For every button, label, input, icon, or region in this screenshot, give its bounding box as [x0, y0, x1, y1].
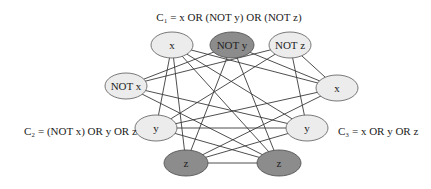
node-c2z: z [164, 150, 208, 176]
clause-label-c1: C₁ = x OR (NOT y) OR (NOT z) [156, 11, 302, 24]
node-label: x [334, 82, 340, 94]
nodes-layer: xNOT yNOT zNOT xyzxyz [105, 32, 358, 176]
node-c1ny: NOT y [210, 32, 254, 58]
node-label: x [169, 39, 175, 51]
node-c3y: y [286, 115, 328, 141]
node-label: z [277, 157, 282, 169]
node-label: NOT y [217, 39, 248, 51]
clique-graph: xNOT yNOT zNOT xyzxyz C₁ = x OR (NOT y) … [0, 0, 431, 189]
node-c1x: x [151, 32, 193, 58]
node-c3x: x [316, 75, 358, 101]
clause-labels-layer: C₁ = x OR (NOT y) OR (NOT z)C₂ = (NOT x)… [24, 11, 418, 138]
edge-c1nz-c2nx [126, 45, 290, 86]
clause-label-c3: C₃ = x OR y OR z [338, 125, 418, 137]
node-c2y: y [135, 115, 177, 141]
node-c3z: z [257, 150, 301, 176]
node-label: NOT z [275, 39, 305, 51]
node-label: y [153, 122, 159, 134]
node-c1nz: NOT z [269, 32, 311, 58]
node-label: NOT x [111, 80, 142, 92]
node-label: z [184, 157, 189, 169]
edge-c1x-c2z [172, 45, 186, 163]
clause-label-c2: C₂ = (NOT x) OR y OR z [24, 125, 137, 138]
node-c2nx: NOT x [105, 73, 147, 99]
edge-c1ny-c3z [232, 45, 279, 163]
node-label: y [304, 122, 310, 134]
edges-layer [126, 45, 337, 163]
